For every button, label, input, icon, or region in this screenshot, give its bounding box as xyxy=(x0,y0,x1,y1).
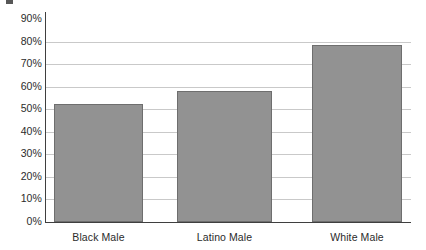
chart-screenshot: 0%10%20%30%40%50%60%70%80%90% Black Male… xyxy=(0,0,426,250)
y-axis-tick-label: 70% xyxy=(0,58,42,69)
y-axis-tick-labels: 0%10%20%30%40%50%60%70%80%90% xyxy=(0,0,42,250)
y-axis-tick-label: 0% xyxy=(0,216,42,227)
bar xyxy=(177,91,272,222)
x-axis-category-label: Black Male xyxy=(39,231,159,244)
y-axis-tick-label: 50% xyxy=(0,103,42,114)
axis-baseline xyxy=(46,222,411,223)
x-axis-category-labels: Black MaleLatino MaleWhite Male xyxy=(0,231,426,250)
y-axis-tick-label: 10% xyxy=(0,193,42,204)
bar xyxy=(312,45,402,222)
plot-area xyxy=(46,19,411,222)
x-axis-category-label: Latino Male xyxy=(165,231,285,244)
x-axis-category-label: White Male xyxy=(297,231,417,244)
bar-series xyxy=(46,19,411,222)
y-axis-tick-label: 30% xyxy=(0,148,42,159)
y-axis-tick-label: 80% xyxy=(0,36,42,47)
y-axis-tick-label: 60% xyxy=(0,81,42,92)
bar-chart: 0%10%20%30%40%50%60%70%80%90% Black Male… xyxy=(0,0,426,250)
y-axis-tick-label: 40% xyxy=(0,126,42,137)
y-axis-tick-label: 20% xyxy=(0,171,42,182)
y-axis-tick-label: 90% xyxy=(0,13,42,24)
bar xyxy=(54,104,143,222)
